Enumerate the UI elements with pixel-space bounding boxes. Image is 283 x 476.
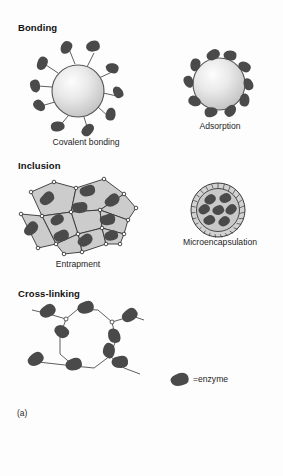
microencapsulation-figure bbox=[186, 178, 250, 242]
legend-label: =enzyme bbox=[193, 374, 228, 384]
support-bead bbox=[52, 65, 104, 117]
panel-label: (a) bbox=[17, 408, 27, 418]
figure-page: Bonding bbox=[0, 0, 283, 476]
caption-entrapment: Entrapment bbox=[32, 259, 124, 269]
cross-linking-figure bbox=[16, 302, 156, 386]
legend-enzyme-symbol bbox=[172, 372, 192, 386]
enzyme-shapes bbox=[26, 300, 139, 372]
entrapment-figure bbox=[16, 174, 142, 256]
enzyme-glyph-icon bbox=[171, 373, 189, 386]
adsorption-figure bbox=[176, 42, 262, 128]
section-heading-inclusion: Inclusion bbox=[18, 160, 61, 171]
caption-microencapsulation: Microencapsulation bbox=[166, 237, 274, 247]
section-heading-bonding: Bonding bbox=[18, 22, 57, 33]
caption-covalent-bonding: Covalent bonding bbox=[40, 137, 132, 147]
section-heading-cross-linking: Cross-linking bbox=[18, 288, 80, 299]
covalent-bonding-figure bbox=[14, 36, 136, 136]
caption-adsorption: Adsorption bbox=[174, 121, 266, 131]
